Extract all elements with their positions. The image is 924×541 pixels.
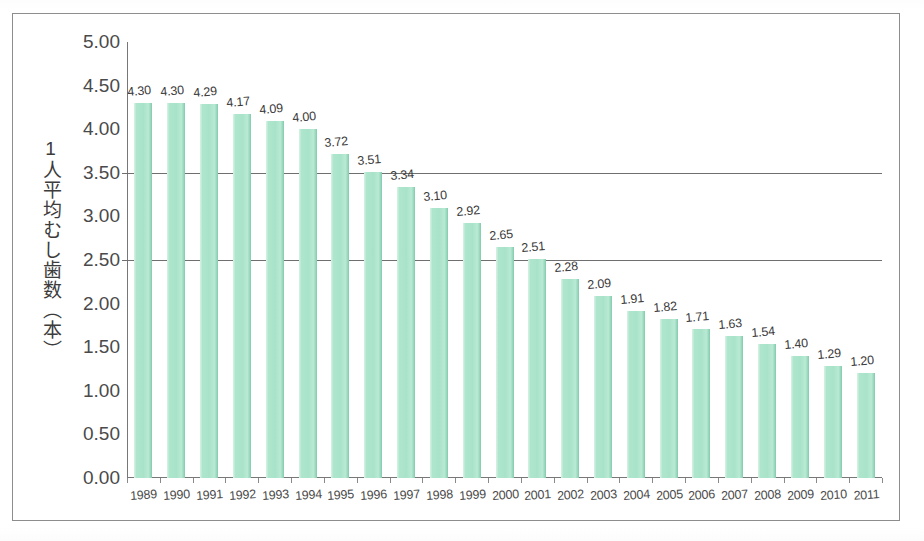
scan-edge-bottom <box>0 527 924 541</box>
bar-data-label: 1.71 <box>685 309 710 325</box>
x-axis-category-label: 1999 <box>456 487 489 503</box>
y-axis-tick-label: 0.00 <box>62 467 120 489</box>
bar-data-label: 4.09 <box>258 101 283 117</box>
x-axis-category-label: 2006 <box>685 487 718 503</box>
x-axis-tickmark <box>849 478 850 483</box>
y-axis-tick-label: 4.00 <box>62 118 120 140</box>
x-axis-tickmark <box>587 478 588 483</box>
y-axis-tick-label: 3.50 <box>62 162 120 184</box>
bar-data-label: 1.82 <box>652 299 677 315</box>
x-axis-category-label: 1990 <box>160 487 193 503</box>
bar[interactable] <box>496 247 514 478</box>
x-axis-tickmark <box>127 478 128 483</box>
bar[interactable] <box>134 103 152 478</box>
bar[interactable] <box>660 319 678 478</box>
x-axis-category-label: 2000 <box>489 487 522 503</box>
bar-data-label: 4.30 <box>160 83 185 99</box>
y-axis-tick-label: 5.00 <box>62 31 120 53</box>
bar[interactable] <box>758 344 776 478</box>
bar-data-label: 4.29 <box>193 84 218 100</box>
bar[interactable] <box>397 187 415 478</box>
bar-data-label: 4.00 <box>291 109 316 125</box>
y-axis-tick-label: 2.00 <box>62 293 120 315</box>
bar[interactable] <box>692 329 710 478</box>
x-axis-tickmark <box>882 478 883 483</box>
bar[interactable] <box>266 121 284 478</box>
plot-area: 4.304.304.294.174.094.003.723.513.343.10… <box>127 42 882 478</box>
x-axis-tickmark <box>718 478 719 483</box>
y-axis-tick-label: 2.50 <box>62 249 120 271</box>
x-axis-category-label: 1991 <box>193 487 226 503</box>
y-axis-tick-label: 0.50 <box>62 423 120 445</box>
x-axis-category-label: 2009 <box>784 487 817 503</box>
y-axis-tickmark <box>122 260 128 261</box>
x-axis-category-label: 2001 <box>521 487 554 503</box>
bar-data-label: 1.91 <box>620 291 645 307</box>
x-axis-tickmark <box>258 478 259 483</box>
x-axis-category-label: 2004 <box>620 487 653 503</box>
x-axis-category-label: 2005 <box>653 487 686 503</box>
x-axis-tickmark <box>816 478 817 483</box>
x-axis-category-label: 1989 <box>127 487 160 503</box>
x-axis-tickmark <box>455 478 456 483</box>
bar[interactable] <box>791 356 809 478</box>
bar[interactable] <box>299 129 317 478</box>
bar[interactable] <box>627 311 645 478</box>
x-axis-tickmark <box>160 478 161 483</box>
x-axis-tickmark <box>784 478 785 483</box>
bar[interactable] <box>857 373 875 478</box>
bar[interactable] <box>430 208 448 478</box>
bar-data-label: 1.20 <box>849 353 874 369</box>
x-axis-tickmark <box>521 478 522 483</box>
bar-data-label: 2.92 <box>455 203 480 219</box>
bar[interactable] <box>167 103 185 478</box>
bar-data-label: 1.63 <box>718 316 743 332</box>
bar-data-label: 3.34 <box>390 167 415 183</box>
x-axis-tickmark <box>225 478 226 483</box>
x-axis-category-label: 2008 <box>751 487 784 503</box>
bar[interactable] <box>200 104 218 478</box>
x-axis-tickmark <box>390 478 391 483</box>
x-axis-tickmark <box>619 478 620 483</box>
x-axis-tickmark <box>751 478 752 483</box>
bar[interactable] <box>561 279 579 478</box>
bar-data-label: 1.40 <box>784 336 809 352</box>
bar-data-label: 2.51 <box>521 239 546 255</box>
y-axis-tick-label: 1.50 <box>62 336 120 358</box>
bar[interactable] <box>233 114 251 478</box>
x-axis-tickmark <box>291 478 292 483</box>
x-axis-tickmark <box>685 478 686 483</box>
bar[interactable] <box>824 366 842 478</box>
x-axis-category-label: 2003 <box>587 487 620 503</box>
x-axis-category-label: 1994 <box>292 487 325 503</box>
x-axis-category-label: 2002 <box>554 487 587 503</box>
bar[interactable] <box>528 259 546 478</box>
bar-data-label: 2.09 <box>587 276 612 292</box>
bar-data-label: 4.17 <box>226 94 251 110</box>
x-axis-category-label: 1996 <box>357 487 390 503</box>
y-axis-tick-label: 3.00 <box>62 205 120 227</box>
y-axis-tick-label: 1.00 <box>62 380 120 402</box>
bar[interactable] <box>594 296 612 478</box>
chart-screenshot: 1人平均むし歯数（本） 5.004.504.003.503.002.502.00… <box>0 0 924 541</box>
y-axis-tickmark <box>122 173 128 174</box>
x-axis-category-label: 1997 <box>390 487 423 503</box>
x-axis-tickmark <box>324 478 325 483</box>
bar[interactable] <box>725 336 743 478</box>
x-axis-tickmark <box>488 478 489 483</box>
x-axis-category-label: 1995 <box>324 487 357 503</box>
x-axis-tickmark <box>193 478 194 483</box>
bar-data-label: 1.54 <box>751 324 776 340</box>
bar[interactable] <box>364 172 382 478</box>
y-axis-tick-label: 4.50 <box>62 75 120 97</box>
bar[interactable] <box>463 223 481 478</box>
x-axis-category-label: 2010 <box>817 487 850 503</box>
x-axis-category-label: 2011 <box>850 487 883 503</box>
bar[interactable] <box>331 154 349 478</box>
y-axis-tick-label-group: 5.004.504.003.503.002.502.001.501.000.50… <box>62 33 120 489</box>
bar-data-label: 4.30 <box>127 83 152 99</box>
bar-data-label: 3.10 <box>423 188 448 204</box>
x-axis-tickmark <box>652 478 653 483</box>
bar-data-label: 2.65 <box>488 227 513 243</box>
x-axis-category-label: 1998 <box>423 487 456 503</box>
